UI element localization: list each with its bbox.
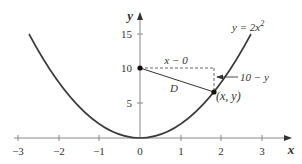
- x-tick-label: 0: [137, 145, 143, 157]
- point-label: (x, y): [216, 89, 241, 103]
- point-0-10: [137, 65, 142, 70]
- x-tick-label: −1: [93, 145, 105, 157]
- x-axis-arrow-icon: [284, 135, 292, 141]
- curve-label: y = 2x2: [231, 19, 264, 33]
- x-axis: −3 −2 −1 0 1 2 3 x: [12, 135, 295, 157]
- x-tick-label: 3: [259, 145, 265, 157]
- distance-label: D: [169, 82, 178, 94]
- y-tick-label: 5: [127, 97, 133, 109]
- x-axis-label: x: [287, 142, 295, 157]
- y-axis-label: y: [125, 8, 133, 23]
- vertical-distance-label: 10 − y: [240, 71, 269, 83]
- y-tick-label: 15: [121, 28, 133, 40]
- curve-label-exponent: 2: [260, 19, 264, 28]
- y-axis: 15 10 5 y: [121, 8, 143, 138]
- figure: −3 −2 −1 0 1 2 3 x 15 10 5 y x − 0 D (x,…: [0, 0, 302, 164]
- horizontal-distance-label: x − 0: [163, 54, 188, 66]
- x-tick-label: −2: [53, 145, 65, 157]
- curve-label-main: y = 2x: [231, 21, 260, 33]
- x-tick-label: 1: [178, 145, 184, 157]
- y-axis-arrow-icon: [137, 12, 143, 20]
- x-tick-label: 2: [218, 145, 224, 157]
- x-tick-label: −3: [12, 145, 24, 157]
- y-tick-label: 10: [121, 62, 133, 74]
